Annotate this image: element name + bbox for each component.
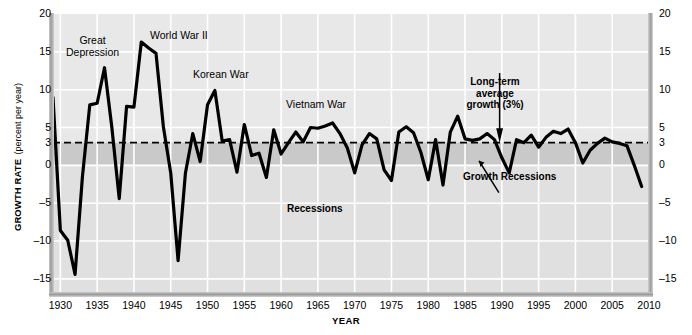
x-tick-label: 1940 [114, 299, 154, 311]
y-tick-label-right: –5 [659, 197, 691, 208]
y-tick-label-left: –5 [21, 197, 51, 208]
x-tick-label: 1985 [445, 299, 485, 311]
annotation-long-term-average: Long-term average growth (3%) [452, 76, 538, 111]
y-tick-label-left: –10 [21, 235, 51, 246]
x-tick-label: 1970 [335, 299, 375, 311]
y-tick-label-left: 3 [21, 137, 51, 148]
x-tick-label: 1975 [371, 299, 411, 311]
y-tick-label-right: –10 [659, 235, 691, 246]
y-tick-label-right: 20 [659, 8, 691, 19]
y-tick-label-left: 20 [21, 8, 51, 19]
y-tick-label-right: 15 [659, 46, 691, 57]
annotation-long-term-line1: Long-term [452, 76, 538, 88]
x-tick-label: 1990 [482, 299, 522, 311]
x-tick-label: 1995 [519, 299, 559, 311]
annotation-long-term-line2: average [452, 88, 538, 100]
annotation-world-war-ii: World War II [150, 29, 208, 41]
x-tick-label: 1980 [408, 299, 448, 311]
annotation-great-depression: Great Depression [66, 34, 119, 58]
x-axis-title: YEAR [0, 315, 692, 326]
growth-rate-chart: GROWTH RATE (percent per year) YEAR 2015… [0, 0, 692, 335]
annotation-recessions: Recessions [287, 203, 343, 215]
y-tick-label-left: –15 [21, 273, 51, 284]
y-tick-label-left: 5 [21, 122, 51, 133]
y-tick-label-right: 0 [659, 159, 691, 170]
y-tick-label-right: 5 [659, 122, 691, 133]
y-tick-label-left: 15 [21, 46, 51, 57]
annotation-great-depression-line1: Great [66, 34, 119, 46]
y-tick-label-right: 3 [659, 137, 691, 148]
x-tick-label: 2000 [555, 299, 595, 311]
y-tick-label-right: –15 [659, 273, 691, 284]
annotation-long-term-line3: growth (3%) [452, 99, 538, 111]
plot-area [53, 14, 649, 294]
x-tick-label: 2005 [592, 299, 632, 311]
y-tick-label-left: 10 [21, 84, 51, 95]
y-axis-title: GROWTH RATE (percent per year) [7, 57, 21, 257]
band-recessions [53, 165, 649, 294]
y-tick-label-right: 10 [659, 84, 691, 95]
x-tick-label: 1965 [298, 299, 338, 311]
chart-svg [53, 14, 649, 294]
x-tick-label: 1945 [151, 299, 191, 311]
annotation-korean-war: Korean War [193, 68, 249, 80]
x-tick-label: 1950 [188, 299, 228, 311]
x-tick-label: 1960 [261, 299, 301, 311]
y-axis-bar-right [648, 13, 653, 297]
x-tick-label: 2010 [629, 299, 669, 311]
x-tick-label: 1935 [77, 299, 117, 311]
annotation-growth-recessions: Growth Recessions [463, 171, 556, 183]
x-axis-bar [49, 292, 653, 297]
annotation-vietnam-war: Vietnam War [286, 98, 346, 110]
annotation-great-depression-line2: Depression [66, 46, 119, 58]
x-tick-label: 1930 [40, 299, 80, 311]
y-tick-label-left: 0 [21, 159, 51, 170]
x-tick-label: 1955 [224, 299, 264, 311]
